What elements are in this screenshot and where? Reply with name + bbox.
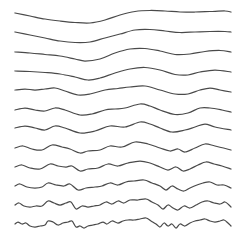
wave-line-5 — [15, 104, 231, 115]
wave-lines-group — [15, 10, 231, 228]
wave-line-3 — [15, 67, 231, 80]
wave-line-9 — [15, 180, 231, 191]
wave-line-7 — [15, 142, 231, 153]
wave-line-8 — [15, 161, 231, 171]
wave-line-11 — [15, 218, 231, 228]
wave-stack-diagram — [0, 0, 252, 244]
wave-line-1 — [15, 29, 231, 42]
wave-line-4 — [15, 86, 231, 95]
wave-line-2 — [15, 48, 231, 61]
wave-line-10 — [15, 199, 231, 210]
wave-line-0 — [15, 10, 231, 23]
wave-line-6 — [15, 122, 231, 133]
